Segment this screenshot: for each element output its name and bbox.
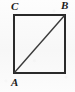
vertex-label-a: A — [11, 77, 18, 88]
vertex-label-b: B — [61, 0, 68, 11]
vertex-label-c: C — [11, 1, 18, 12]
geometry-figure: C B A — [0, 0, 75, 92]
diagonal-segment-AB — [15, 16, 65, 73]
